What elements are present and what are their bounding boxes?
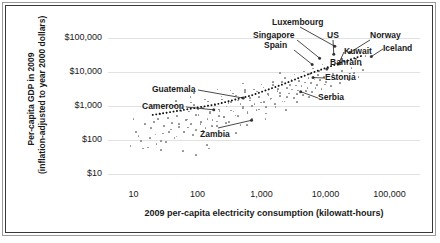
scatter-point	[133, 118, 135, 120]
y-axis-title-line1: Per-capita GDP in 2009	[26, 24, 37, 174]
scatter-point	[207, 101, 209, 103]
scatter-point	[237, 100, 239, 102]
scatter-point	[272, 84, 274, 86]
scatter-point	[178, 126, 180, 128]
scatter-point	[240, 103, 242, 105]
scatter-point	[138, 135, 140, 137]
scatter-point	[160, 149, 162, 151]
scatter-point	[263, 101, 265, 103]
scatter-point	[277, 90, 279, 92]
scatter-point	[277, 88, 279, 90]
scatter-point	[149, 137, 151, 139]
scatter-point	[265, 118, 267, 120]
annotation-label-iceland: Iceland	[383, 44, 412, 53]
scatter-point	[153, 121, 155, 123]
scatter-point	[147, 147, 149, 149]
scatter-point	[263, 87, 265, 89]
scatter-point	[300, 76, 302, 78]
scatter-point	[296, 93, 298, 95]
scatter-point	[328, 67, 330, 69]
scatter-point	[246, 124, 248, 126]
scatter-point	[178, 123, 180, 125]
scatter-point	[289, 84, 291, 86]
scatter-point	[156, 143, 158, 145]
y-tick-label: $1,000	[74, 101, 102, 110]
annotation-label-us: US	[327, 31, 339, 40]
scatter-point	[166, 112, 168, 114]
scatter-point	[321, 88, 323, 90]
scatter-point	[265, 113, 267, 115]
scatter-point	[258, 96, 260, 98]
scatter-point	[212, 119, 214, 121]
scatter-point	[279, 95, 281, 97]
scatter-point	[304, 82, 306, 84]
scatter-point	[235, 132, 237, 134]
scatter-point	[218, 115, 220, 117]
scatter-point	[209, 111, 211, 113]
scatter-point	[187, 127, 189, 129]
scatter-point	[258, 109, 260, 111]
scatter-point	[195, 129, 197, 131]
scatter-point	[207, 118, 209, 120]
annotation-label-spain: Spain	[264, 41, 287, 50]
scatter-point	[339, 82, 341, 84]
scatter-point	[160, 140, 162, 142]
scatter-point	[192, 134, 194, 136]
x-tick-label: 100	[167, 190, 227, 199]
scatter-point	[362, 69, 364, 71]
scatter-point	[249, 97, 251, 99]
scatter-point	[193, 104, 195, 106]
x-axis-title: 2009 per-capita electricity consumption …	[68, 208, 440, 218]
scatter-point	[279, 92, 281, 94]
scatter-point	[202, 107, 204, 109]
scatter-point	[221, 96, 223, 98]
scatter-point	[237, 115, 239, 117]
scatter-point	[322, 64, 324, 66]
scatter-point	[256, 91, 258, 93]
annotation-label-bahrain: Bahrain	[330, 58, 362, 67]
scatter-point	[221, 99, 223, 101]
scatter-point	[144, 123, 146, 125]
scatter-point	[317, 74, 319, 76]
scatter-point	[330, 85, 332, 87]
scatter-point	[295, 85, 297, 87]
scatter-point	[309, 73, 311, 75]
scatter-point	[206, 144, 208, 146]
scatter-point	[268, 94, 270, 96]
scatter-point	[310, 82, 312, 84]
scatter-point	[293, 97, 295, 99]
scatter-point	[308, 77, 310, 79]
scatter-point	[230, 90, 232, 92]
annotation-label-zambia: Zambia	[200, 130, 230, 139]
scatter-point	[219, 110, 221, 112]
scatter-point	[225, 122, 227, 124]
scatter-point	[301, 85, 303, 87]
scatter-point	[182, 150, 184, 152]
scatter-point	[228, 121, 230, 123]
scatter-point	[190, 102, 192, 104]
scatter-point	[232, 93, 234, 95]
scatter-point	[228, 102, 230, 104]
scatter-point	[291, 89, 293, 91]
scatter-point	[316, 84, 318, 86]
scatter-point	[311, 91, 313, 93]
scatter-point	[251, 118, 253, 120]
x-tick-label: 100,000	[359, 190, 419, 199]
y-tick-label: $100	[82, 135, 102, 144]
scatter-point	[265, 106, 267, 108]
annotation-label-luxembourg: Luxembourg	[272, 18, 323, 27]
scatter-point	[150, 127, 152, 129]
scatter-point	[200, 123, 202, 125]
scatter-point	[253, 89, 255, 91]
scatter-point	[235, 95, 237, 97]
scatter-point	[305, 90, 307, 92]
scatter-point	[171, 122, 173, 124]
x-tick-label: 1,000	[231, 190, 291, 199]
scatter-point	[284, 101, 286, 103]
scatter-point	[230, 110, 232, 112]
scatter-point	[308, 96, 310, 98]
gridline-y	[108, 140, 420, 141]
y-tick-label: $10	[87, 169, 102, 178]
scatter-point	[135, 131, 137, 133]
annotation-label-guatemala: Guatemala	[152, 85, 195, 94]
